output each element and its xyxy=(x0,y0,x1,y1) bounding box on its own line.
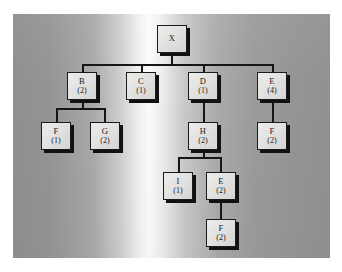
tree-node-g[interactable]: G (2) xyxy=(90,122,120,150)
tree-node-e-top-label: E xyxy=(269,77,274,86)
tree-node-e-top[interactable]: E (4) xyxy=(257,72,287,100)
tree-node-c-label: C xyxy=(138,77,144,86)
tree-node-d-label: D xyxy=(200,77,206,86)
edge-b-bus xyxy=(56,108,105,110)
edge-e2-to-f3 xyxy=(220,200,222,220)
tree-node-c[interactable]: C (1) xyxy=(126,72,156,100)
edge-h-to-i xyxy=(178,157,180,173)
tree-node-b[interactable]: B (2) xyxy=(67,72,97,100)
tree-node-f-right-count: (2) xyxy=(267,137,276,145)
tree-node-c-count: (1) xyxy=(136,87,145,95)
tree-node-d-count: (1) xyxy=(198,87,207,95)
tree-node-e-mid-label: E xyxy=(218,177,223,186)
edge-h-bus xyxy=(178,157,221,159)
tree-node-f-bottom-label: F xyxy=(219,224,224,233)
tree-node-f-bottom[interactable]: F (2) xyxy=(206,219,236,247)
tree-node-i-label: I xyxy=(176,177,179,186)
tree-node-f-left[interactable]: F (1) xyxy=(41,122,71,150)
edge-e1-to-f2 xyxy=(272,100,274,123)
tree-node-f-right-label: F xyxy=(270,127,275,136)
tree-node-b-label: B xyxy=(79,77,85,86)
tree-node-i[interactable]: I (1) xyxy=(163,172,193,200)
tree-node-d[interactable]: D (1) xyxy=(188,72,218,100)
tree-node-e-top-count: (4) xyxy=(267,87,276,95)
edge-h-to-e2 xyxy=(220,157,222,173)
tree-node-b-count: (2) xyxy=(77,87,86,95)
tree-node-e-mid-count: (2) xyxy=(216,187,225,195)
edge-d-to-h xyxy=(203,100,205,123)
tree-node-x-label: X xyxy=(169,34,175,43)
edge-row2-bus xyxy=(82,64,273,66)
tree-node-i-count: (1) xyxy=(173,187,182,195)
tree-node-f-bottom-count: (2) xyxy=(216,234,225,242)
tree-node-h-label: H xyxy=(200,127,206,136)
tree-node-f-right[interactable]: F (2) xyxy=(257,122,287,150)
tree-node-h-count: (2) xyxy=(198,137,207,145)
edge-b-to-f xyxy=(56,108,58,123)
diagram-canvas: X B (2) C (1) D (1) E (4) F (1) G (2) H … xyxy=(0,0,342,272)
tree-node-x[interactable]: X xyxy=(157,25,187,53)
tree-node-f-left-count: (1) xyxy=(51,137,60,145)
tree-node-h[interactable]: H (2) xyxy=(188,122,218,150)
tree-node-g-count: (2) xyxy=(100,137,109,145)
tree-node-e-mid[interactable]: E (2) xyxy=(206,172,236,200)
edge-b-to-g xyxy=(104,108,106,123)
tree-node-g-label: G xyxy=(102,127,108,136)
tree-node-f-left-label: F xyxy=(54,127,59,136)
